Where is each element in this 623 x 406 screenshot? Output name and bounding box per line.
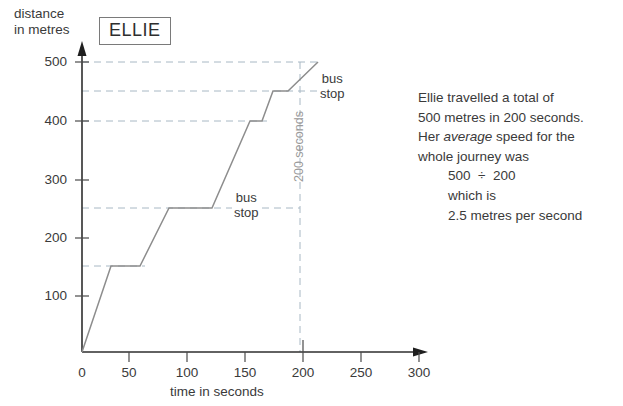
y-axis-title-line1: distance — [14, 6, 64, 21]
y-tick-label-200: 200 — [33, 230, 67, 245]
chart-canvas: distancein metres time in seconds ELLIE … — [0, 0, 623, 406]
x-axis-title: time in seconds — [170, 384, 264, 400]
y-tick-label-500: 500 — [33, 54, 67, 69]
note-line-6: which is — [418, 186, 618, 206]
y-axis-arrowhead — [78, 41, 87, 56]
x-axis-arrowhead — [413, 348, 428, 357]
note-line-3b: speed for the — [492, 129, 575, 144]
chart-title-box: ELLIE — [99, 17, 171, 45]
x-tick-label-0: 0 — [65, 365, 99, 380]
bus-stop-top-line1: bus — [322, 71, 343, 86]
note-line-3a: Her — [418, 129, 444, 144]
note-line-3: Her average speed for the — [418, 127, 618, 147]
x-tick-label-250: 250 — [344, 365, 378, 380]
x-tick-label-300: 300 — [402, 365, 436, 380]
x-tick-label-200: 200 — [286, 365, 320, 380]
journey-line — [82, 62, 318, 352]
y-axis-title-line2: in metres — [14, 22, 70, 37]
note-line-1: Ellie travelled a total of — [418, 88, 618, 108]
note-line-2: 500 metres in 200 seconds. — [418, 108, 618, 128]
x-tick-label-50: 50 — [112, 365, 146, 380]
vertical-marker-label: 200 seconds — [292, 168, 306, 182]
bus-stop-mid-line1: bus — [236, 190, 257, 205]
note-line-4: whole journey was — [418, 147, 618, 167]
note-line-3-emphasis: average — [444, 129, 493, 144]
y-axis-title: distancein metres — [14, 6, 70, 37]
x-tick-marks — [129, 340, 419, 362]
y-tick-label-100: 100 — [33, 288, 67, 303]
x-tick-label-150: 150 — [228, 365, 262, 380]
y-tick-label-300: 300 — [33, 172, 67, 187]
bus-stop-label-middle: busstop — [232, 190, 261, 220]
note-line-7-result: 2.5 metres per second — [418, 206, 618, 226]
bus-stop-top-line2: stop — [320, 86, 345, 101]
note-line-5-calculation: 500 ÷ 200 — [418, 166, 618, 186]
x-tick-label-100: 100 — [170, 365, 204, 380]
bus-stop-mid-line2: stop — [234, 205, 259, 220]
y-tick-label-400: 400 — [33, 113, 67, 128]
explanation-note: Ellie travelled a total of 500 metres in… — [418, 88, 618, 225]
bus-stop-label-top: busstop — [318, 71, 347, 101]
